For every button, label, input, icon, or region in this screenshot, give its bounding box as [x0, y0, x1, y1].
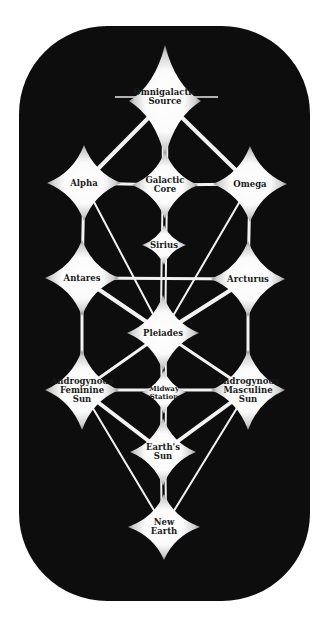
star-node-new-earth — [128, 494, 200, 560]
star-node-masc-sun — [211, 350, 285, 430]
diagram-stage: Omnigalactic SourceAlphaGalactic CoreOme… — [0, 0, 327, 624]
edge-alpha-to-pleiades — [84, 183, 163, 333]
star-node-sirius — [142, 225, 186, 265]
star-node-omnigalactic — [129, 45, 201, 157]
star-node-pleiades — [127, 295, 199, 371]
star-node-arcturus — [211, 241, 285, 317]
star-node-midway — [142, 370, 186, 414]
star-node-fem-sun — [45, 350, 119, 430]
tree-of-life-diagram — [0, 0, 327, 624]
star-node-earths-sun — [130, 418, 196, 486]
star-node-antares — [45, 240, 119, 316]
star-node-galactic-core — [132, 151, 198, 219]
edge-omega-to-pleiades — [163, 184, 250, 333]
